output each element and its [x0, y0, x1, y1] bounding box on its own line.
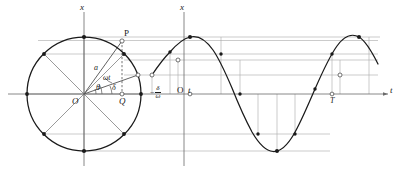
wave-marker-10 [357, 35, 361, 39]
wave-marker-2 [188, 35, 192, 39]
wave-marker-9 [330, 52, 333, 55]
wave-marker-4 [238, 92, 241, 95]
amplitude-label: a [94, 64, 98, 72]
wave-marker-5 [256, 132, 259, 135]
wave-marker-mid-up [176, 58, 180, 62]
circle-marker-45 [122, 52, 126, 56]
phase-offset-minus-sign: − [150, 89, 155, 97]
omega-t-label: ωt [103, 74, 110, 82]
circle-marker-90 [82, 35, 86, 39]
axis-arrows [383, 92, 388, 96]
wave-marker-7 [293, 132, 296, 135]
origin-label-wave: O [177, 86, 184, 95]
circle-marker-135 [42, 52, 46, 56]
circle-marker-180 [25, 92, 29, 96]
figure-root: x x t O O t P Q a ωt θ δ T −δω [0, 0, 398, 172]
wave-marker-8 [313, 87, 316, 90]
wave-marker-period-up [338, 73, 342, 77]
axes [8, 12, 388, 166]
point-label-p: P [124, 29, 129, 38]
sine-construction-figure [0, 0, 398, 172]
axis-label-x-right: x [180, 3, 184, 12]
point-label-q: Q [119, 97, 126, 106]
axis-label-x-left: x [80, 3, 84, 12]
phasor-radius-op-main [84, 41, 122, 94]
theta-label: θ [96, 84, 100, 92]
axis-label-t-origin: t [188, 86, 191, 95]
wave-marker-start [150, 73, 154, 77]
phase-offset-label: −δω [150, 85, 161, 100]
circle-marker-225 [42, 132, 46, 136]
origin-label-circle: O [72, 97, 79, 106]
circle-marker-right-proj [136, 73, 140, 77]
wave-marker-6 [275, 149, 279, 153]
delta-label: δ [112, 84, 116, 92]
arrow-t-axis [383, 92, 388, 96]
circle-marker-270 [82, 149, 86, 153]
axis-label-t-right: t [390, 86, 393, 95]
point-p-marker [120, 39, 124, 43]
period-label: T [330, 97, 334, 105]
circle-marker-0 [139, 92, 143, 96]
wave-marker-3 [219, 52, 222, 55]
wave-marker-1 [168, 50, 171, 53]
spoke-315 [84, 94, 124, 134]
circle-marker-315 [122, 132, 126, 136]
spoke-45 [44, 54, 84, 94]
phasor-radius-op [84, 75, 138, 94]
phase-offset-fraction: δω [155, 85, 161, 100]
phase-offset-denominator: ω [155, 93, 161, 100]
